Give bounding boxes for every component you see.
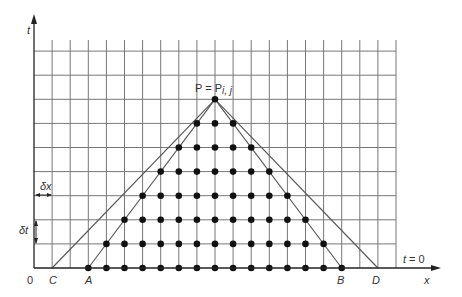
mesh-point xyxy=(139,217,146,224)
mesh-point xyxy=(139,192,146,199)
dx-label: δx xyxy=(40,180,52,192)
mesh-point xyxy=(176,241,183,248)
mesh-point xyxy=(194,120,201,127)
x-axis-arrow-icon xyxy=(431,265,441,271)
mesh-point xyxy=(248,241,255,248)
mesh-point xyxy=(302,217,309,224)
mesh-point xyxy=(320,241,327,248)
mesh-point xyxy=(266,217,273,224)
dt-label: δt xyxy=(19,224,29,236)
mesh-point xyxy=(194,192,201,199)
mesh-point xyxy=(194,144,201,151)
point-D-label: D xyxy=(372,274,380,286)
mesh-point xyxy=(284,192,291,199)
mesh-point xyxy=(157,192,164,199)
grid xyxy=(34,40,396,268)
mesh-point xyxy=(212,120,219,127)
mesh-point xyxy=(176,168,183,175)
apex-label: P = Pi, j xyxy=(195,82,233,96)
mesh-point xyxy=(248,217,255,224)
mesh-point xyxy=(194,241,201,248)
mesh-point xyxy=(248,144,255,151)
mesh-point xyxy=(139,241,146,248)
mesh-point xyxy=(194,217,201,224)
dx-arrow-right-icon xyxy=(47,193,52,197)
mesh-point xyxy=(121,217,128,224)
mesh-point xyxy=(157,168,164,175)
mesh-point xyxy=(212,241,219,248)
finite-difference-domain-diagram: t x 0 t = 0 δx δt P = Pi, j C A B D xyxy=(0,0,462,297)
mesh-point xyxy=(157,241,164,248)
line-DP xyxy=(215,99,378,268)
point-B-label: B xyxy=(337,274,344,286)
mesh-point xyxy=(230,217,237,224)
mesh-point xyxy=(266,192,273,199)
baseline-label: t = 0 xyxy=(403,253,425,265)
mesh-point xyxy=(212,217,219,224)
origin-label: 0 xyxy=(27,274,33,286)
mesh-point xyxy=(212,168,219,175)
mesh-point xyxy=(212,96,219,103)
mesh-point xyxy=(230,168,237,175)
mesh-point xyxy=(284,241,291,248)
mesh-point xyxy=(194,168,201,175)
t-axis-label: t xyxy=(27,24,31,36)
mesh-point xyxy=(176,144,183,151)
mesh-point xyxy=(103,241,110,248)
mesh-point xyxy=(176,217,183,224)
mesh-point xyxy=(302,241,309,248)
mesh-point xyxy=(248,168,255,175)
mesh-point xyxy=(266,168,273,175)
line-CP xyxy=(52,99,215,268)
t-axis-arrow-icon xyxy=(31,14,37,24)
dx-arrow-left-icon xyxy=(35,193,40,197)
mesh-point xyxy=(212,192,219,199)
mesh-point xyxy=(157,217,164,224)
mesh-point xyxy=(248,192,255,199)
mesh-point xyxy=(284,217,291,224)
mesh-point xyxy=(266,241,273,248)
mesh-point xyxy=(212,144,219,151)
mesh-point xyxy=(230,192,237,199)
mesh-point xyxy=(230,120,237,127)
x-axis-label: x xyxy=(423,274,430,286)
mesh-point xyxy=(121,241,128,248)
mesh-point xyxy=(176,192,183,199)
mesh-point xyxy=(230,144,237,151)
mesh-point xyxy=(230,241,237,248)
point-C-label: C xyxy=(49,274,57,286)
point-A-label: A xyxy=(84,274,92,286)
